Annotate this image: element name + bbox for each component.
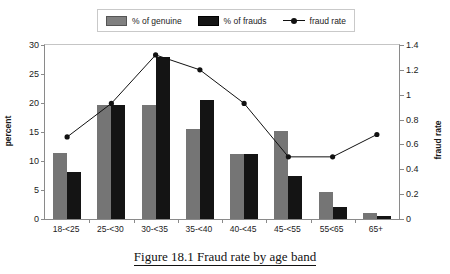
x-axis-tick bbox=[134, 219, 135, 223]
x-axis-label: 45-<55 bbox=[274, 224, 301, 234]
x-axis-label: 25-<30 bbox=[97, 224, 124, 234]
y-tick-label-30: 30 bbox=[29, 40, 39, 50]
y-tick-label-5: 5 bbox=[34, 185, 39, 195]
fraud-rate-line bbox=[67, 55, 377, 157]
line-marker-swatch-icon bbox=[283, 17, 305, 25]
figure-caption-text: Figure 18.1 Fraud rate by age band bbox=[134, 249, 316, 266]
legend-item-genuine: % of genuine bbox=[106, 16, 182, 26]
y2-tick-label-1-2: 1.2 bbox=[406, 65, 419, 75]
x-axis-label: 30-<35 bbox=[141, 224, 168, 234]
fraud-rate-point bbox=[286, 154, 291, 159]
y2-axis-label-fraud-rate: fraud rate bbox=[433, 120, 443, 159]
y2-tick-label-0: 0 bbox=[406, 214, 411, 224]
plot-area: 051015202530 00.20.40.60.811.21.4 bbox=[44, 44, 400, 220]
x-axis-label: 18-<25 bbox=[53, 224, 80, 234]
legend-label-fraud-rate: fraud rate bbox=[310, 16, 346, 26]
fraud-rate-point bbox=[109, 101, 114, 106]
y2-tick-label-0-6: 0.6 bbox=[406, 139, 419, 149]
x-axis-tick bbox=[266, 219, 267, 223]
fraud-rate-line-series bbox=[45, 45, 399, 219]
y2-tick-label-0-4: 0.4 bbox=[406, 164, 419, 174]
black-square-swatch-icon bbox=[198, 16, 219, 26]
x-axis-tick bbox=[311, 219, 312, 223]
x-axis-tick bbox=[222, 219, 223, 223]
fraud-rate-point bbox=[374, 132, 379, 137]
fraud-rate-point bbox=[197, 67, 202, 72]
legend-item-frauds: % of frauds bbox=[198, 16, 267, 26]
fraud-rate-point bbox=[242, 101, 247, 106]
y2-tick-label-1: 1 bbox=[406, 90, 411, 100]
fraud-rate-point bbox=[65, 134, 70, 139]
legend-item-fraud-rate: fraud rate bbox=[283, 16, 346, 26]
y2-tick-label-0-2: 0.2 bbox=[406, 189, 419, 199]
chart-legend: % of genuine % of frauds fraud rate bbox=[97, 9, 355, 32]
y2-tick-label-1-4: 1.4 bbox=[406, 40, 419, 50]
x-axis-tick bbox=[178, 219, 179, 223]
gray-square-swatch-icon bbox=[106, 16, 127, 26]
y-tick-label-25: 25 bbox=[29, 69, 39, 79]
figure-container: % of genuine % of frauds fraud rate perc… bbox=[0, 0, 450, 274]
x-axis-label: 65+ bbox=[369, 224, 383, 234]
fraud-rate-point bbox=[153, 52, 158, 57]
x-axis-label: 40-<45 bbox=[230, 224, 257, 234]
x-axis-label: 55<65 bbox=[320, 224, 344, 234]
y-axis-label-percent: percent bbox=[3, 116, 13, 147]
y-tick-label-10: 10 bbox=[29, 156, 39, 166]
y2-tick-label-0-8: 0.8 bbox=[406, 115, 419, 125]
y-tick-label-20: 20 bbox=[29, 98, 39, 108]
x-axis-tick bbox=[355, 219, 356, 223]
legend-label-genuine: % of genuine bbox=[132, 16, 182, 26]
fraud-rate-point bbox=[330, 154, 335, 159]
x-axis-tick bbox=[89, 219, 90, 223]
y-tick-label-15: 15 bbox=[29, 127, 39, 137]
figure-caption: Figure 18.1 Fraud rate by age band bbox=[0, 249, 450, 265]
legend-label-frauds: % of frauds bbox=[224, 16, 267, 26]
y-tick-label-0: 0 bbox=[34, 214, 39, 224]
x-axis-label: 35-<40 bbox=[186, 224, 213, 234]
